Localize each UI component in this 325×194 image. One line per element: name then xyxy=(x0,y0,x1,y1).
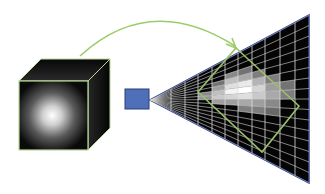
volume-cube xyxy=(19,59,110,150)
voxel-cell xyxy=(265,99,280,108)
voxel-cell xyxy=(252,92,265,100)
diagram-svg xyxy=(0,0,325,194)
diagram-canvas xyxy=(0,0,325,194)
cube-front-face xyxy=(19,81,88,150)
camera-icon xyxy=(125,89,149,109)
arrow-curve xyxy=(80,21,235,56)
mapping-arrow xyxy=(80,21,236,56)
view-frustum xyxy=(150,15,309,183)
voxel-cell xyxy=(252,99,265,107)
voxel-cell xyxy=(265,91,280,100)
